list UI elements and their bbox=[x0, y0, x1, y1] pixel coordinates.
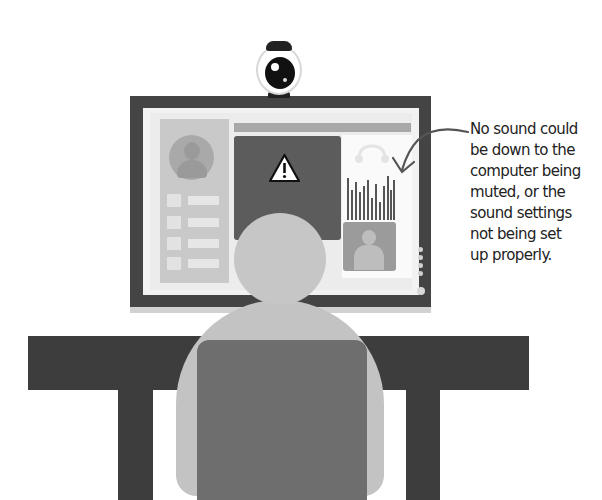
person-head bbox=[234, 213, 326, 305]
person-avatar-body bbox=[354, 245, 384, 270]
desk-leg-left bbox=[118, 388, 153, 500]
menu-item-label bbox=[188, 239, 219, 248]
bezel-dot bbox=[418, 255, 423, 260]
bezel-dot bbox=[418, 247, 423, 252]
warning-icon bbox=[268, 153, 301, 183]
menu-item-icon bbox=[167, 216, 181, 229]
callout-line: computer being bbox=[470, 161, 602, 182]
webcam-icon bbox=[265, 57, 295, 89]
chair-back bbox=[197, 340, 367, 500]
callout-line: be down to the bbox=[470, 140, 602, 161]
callout-line: not being set bbox=[470, 224, 602, 245]
avatar-head-icon bbox=[184, 142, 200, 160]
lens-glint bbox=[271, 63, 279, 71]
webcam-cap bbox=[266, 41, 292, 51]
menu-item-icon bbox=[167, 257, 181, 270]
menu-item-icon bbox=[167, 194, 181, 207]
callout-arrow-icon bbox=[380, 120, 470, 200]
callout-line: muted, or the bbox=[470, 182, 602, 203]
desk-leg-right bbox=[406, 388, 440, 500]
bezel-dot bbox=[418, 263, 423, 268]
callout-line: No sound could bbox=[470, 119, 602, 140]
power-button bbox=[417, 287, 425, 295]
lens-glint bbox=[283, 78, 287, 82]
menu-item-icon bbox=[167, 237, 181, 250]
bezel-dot bbox=[418, 271, 423, 276]
menu-item-label bbox=[188, 218, 219, 227]
callout-text: No sound could be down to the computer b… bbox=[470, 119, 602, 266]
person-avatar-icon bbox=[362, 230, 376, 245]
callout-line: up properly. bbox=[470, 245, 602, 266]
menu-item-label bbox=[188, 259, 219, 268]
menu-item-label bbox=[188, 196, 219, 205]
callout-line: sound settings bbox=[470, 203, 602, 224]
